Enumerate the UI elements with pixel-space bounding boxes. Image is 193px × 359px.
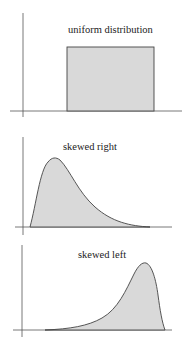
distribution-shapes-diagram: uniform distribution skewed right skewed… bbox=[0, 0, 193, 359]
panel-title: uniform distribution bbox=[68, 24, 154, 35]
panel-title: skewed right bbox=[63, 141, 117, 152]
skewed-right-curve bbox=[30, 158, 150, 227]
uniform-panel: uniform distribution bbox=[10, 13, 182, 117]
uniform-rectangle bbox=[67, 47, 154, 111]
skewed-right-panel: skewed right bbox=[15, 137, 172, 235]
skewed-left-panel: skewed left bbox=[13, 245, 172, 337]
panel-title: skewed left bbox=[78, 249, 126, 260]
skewed-left-curve bbox=[45, 263, 165, 330]
